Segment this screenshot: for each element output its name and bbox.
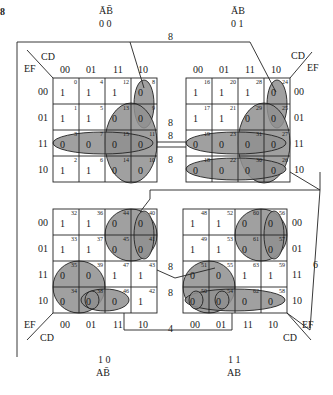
kmap-cell: 121 bbox=[105, 78, 131, 104]
cell-value: 0 bbox=[271, 166, 276, 176]
cell-minterm-index: 28 bbox=[256, 79, 262, 85]
group-size-bottom1: 8 bbox=[168, 262, 173, 272]
tr-cd-label: CD bbox=[291, 51, 305, 61]
cell-value: 0 bbox=[216, 297, 221, 307]
cell-value: 0 bbox=[138, 245, 143, 255]
cell-value: 0 bbox=[138, 219, 143, 229]
cell-value: 0 bbox=[245, 140, 250, 150]
cell-value: 0 bbox=[268, 219, 273, 229]
cell-minterm-index: 32 bbox=[71, 210, 77, 216]
cell-minterm-index: 60 bbox=[253, 210, 259, 216]
cell-value: 0 bbox=[242, 219, 247, 229]
kmap-cell: 550 bbox=[209, 261, 235, 287]
cell-value: 0 bbox=[190, 297, 195, 307]
cell-minterm-index: 22 bbox=[230, 157, 236, 163]
cell-minterm-index: 41 bbox=[149, 236, 155, 242]
kmap-cell: 361 bbox=[79, 209, 105, 235]
kmap-cell: 171 bbox=[186, 104, 212, 130]
tl-row-01: 01 bbox=[38, 113, 48, 123]
kmap-cell: 510 bbox=[183, 261, 209, 287]
kmap-cell: 410 bbox=[131, 235, 157, 261]
tl-ab-label: ĀB̄ bbox=[99, 6, 113, 16]
cell-value: 0 bbox=[245, 114, 250, 124]
group-size-mid2: 8 bbox=[168, 131, 173, 141]
tr-row-00: 00 bbox=[294, 87, 304, 97]
br-cd-label: CD bbox=[283, 333, 297, 343]
cell-value: 1 bbox=[190, 219, 195, 229]
cell-minterm-index: 0 bbox=[74, 79, 77, 85]
tl-ab-code: 0 0 bbox=[99, 19, 112, 29]
cell-minterm-index: 13 bbox=[123, 105, 129, 111]
kmap-cell: 371 bbox=[79, 235, 105, 261]
cell-minterm-index: 25 bbox=[282, 105, 288, 111]
cell-minterm-index: 6 bbox=[100, 157, 103, 163]
tl-row-11: 11 bbox=[38, 139, 48, 149]
kmap-cell: 340 bbox=[53, 287, 79, 313]
tl-row-10: 10 bbox=[38, 165, 48, 175]
cell-minterm-index: 3 bbox=[74, 131, 77, 137]
kmap-cell: 460 bbox=[105, 287, 131, 313]
cell-minterm-index: 11 bbox=[149, 131, 155, 137]
cell-minterm-index: 24 bbox=[282, 79, 288, 85]
kmap-cell: 350 bbox=[53, 261, 79, 287]
cell-value: 0 bbox=[112, 245, 117, 255]
br-row-11: 11 bbox=[292, 270, 302, 280]
cell-minterm-index: 29 bbox=[256, 105, 262, 111]
cell-minterm-index: 61 bbox=[253, 236, 259, 242]
br-ef-label: EF bbox=[302, 320, 314, 330]
group-size-mid1: 8 bbox=[168, 118, 173, 128]
kmap-cell: 440 bbox=[105, 209, 131, 235]
cell-minterm-index: 27 bbox=[282, 131, 288, 137]
cell-minterm-index: 38 bbox=[97, 288, 103, 294]
bl-row-00: 00 bbox=[38, 218, 48, 228]
cell-value: 0 bbox=[268, 245, 273, 255]
cell-value: 1 bbox=[112, 88, 117, 98]
cell-minterm-index: 2 bbox=[74, 157, 77, 163]
cell-value: 1 bbox=[190, 245, 195, 255]
cell-value: 1 bbox=[60, 245, 65, 255]
bl-col-00: 00 bbox=[60, 320, 70, 330]
cell-minterm-index: 12 bbox=[123, 79, 129, 85]
cell-minterm-index: 40 bbox=[149, 210, 155, 216]
kmap-cell: 110 bbox=[131, 130, 157, 156]
cell-value: 0 bbox=[86, 271, 91, 281]
kmap-cell: 390 bbox=[79, 261, 105, 287]
cell-value: 0 bbox=[242, 245, 247, 255]
cell-minterm-index: 56 bbox=[279, 210, 285, 216]
bl-ab-label: AB̄ bbox=[96, 368, 110, 378]
cell-value: 0 bbox=[268, 297, 273, 307]
kmap-cell: 431 bbox=[131, 261, 157, 287]
tr-row-11: 11 bbox=[294, 139, 304, 149]
bl-col-10: 10 bbox=[138, 320, 148, 330]
cell-value: 1 bbox=[86, 88, 91, 98]
cell-minterm-index: 53 bbox=[227, 236, 233, 242]
tl-col-00: 00 bbox=[60, 65, 70, 75]
tr-col-11: 11 bbox=[245, 65, 255, 75]
cell-minterm-index: 44 bbox=[123, 210, 129, 216]
cell-minterm-index: 36 bbox=[97, 210, 103, 216]
tr-col-10: 10 bbox=[271, 65, 281, 75]
kmap-cell: 500 bbox=[183, 287, 209, 313]
cell-minterm-index: 33 bbox=[71, 236, 77, 242]
cell-minterm-index: 62 bbox=[253, 288, 259, 294]
cell-value: 0 bbox=[86, 297, 91, 307]
kmap-cell: 240 bbox=[264, 78, 290, 104]
cell-minterm-index: 18 bbox=[204, 157, 210, 163]
tl-col-10: 10 bbox=[138, 65, 148, 75]
group-size-top: 8 bbox=[168, 32, 173, 42]
cell-minterm-index: 8 bbox=[152, 79, 155, 85]
br-ab-code: 1 1 bbox=[228, 355, 241, 365]
kmap-cell: 471 bbox=[105, 261, 131, 287]
cell-value: 0 bbox=[138, 114, 143, 124]
kmap-cell: 600 bbox=[235, 209, 261, 235]
cell-value: 1 bbox=[138, 297, 143, 307]
kmap-cell: 521 bbox=[209, 209, 235, 235]
kmap-cell: 531 bbox=[209, 235, 235, 261]
cell-minterm-index: 63 bbox=[253, 262, 259, 268]
kmap-cell: 321 bbox=[53, 209, 79, 235]
cell-minterm-index: 10 bbox=[149, 157, 155, 163]
cell-value: 1 bbox=[60, 219, 65, 229]
tr-col-01: 01 bbox=[219, 65, 229, 75]
bl-row-11: 11 bbox=[38, 270, 48, 280]
cell-minterm-index: 35 bbox=[71, 262, 77, 268]
